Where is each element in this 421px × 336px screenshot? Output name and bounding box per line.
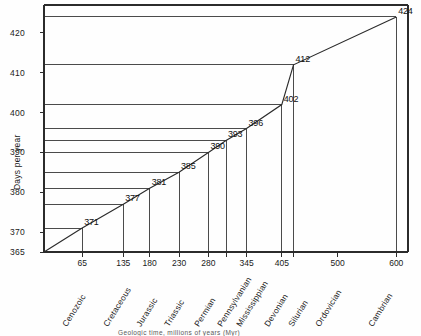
- x-tick-label: 230: [167, 258, 191, 268]
- y-tick-label: 365: [10, 247, 25, 257]
- leader-lines: [44, 17, 396, 228]
- data-point-label: 396: [249, 118, 263, 128]
- data-point-label: 390: [210, 141, 224, 151]
- chart-canvas: [0, 0, 421, 336]
- x-tick-label: 405: [270, 258, 294, 268]
- data-point-label: 393: [228, 129, 242, 139]
- data-point-label: 385: [181, 161, 195, 171]
- x-tick-label: 280: [196, 258, 220, 268]
- y-tick-label: 380: [10, 187, 25, 197]
- y-tick-label: 390: [10, 147, 25, 157]
- data-point-label: 377: [125, 193, 139, 203]
- y-axis-title: Days per year: [12, 134, 22, 190]
- figure-caption: Geologic time, millions of years (Myr): [118, 329, 240, 336]
- data-point-label: 402: [284, 94, 298, 104]
- y-tick-label: 400: [10, 108, 25, 118]
- figure-root: Days per year 365370380390400410420 6513…: [0, 0, 421, 336]
- x-tick-label: 600: [384, 258, 408, 268]
- y-tick-label: 410: [10, 68, 25, 78]
- data-point-label: 412: [296, 54, 310, 64]
- data-point-label: 371: [84, 217, 98, 227]
- data-point-label: 381: [152, 177, 166, 187]
- y-tick-label: 420: [10, 28, 25, 38]
- data-point-label: 424: [398, 6, 412, 16]
- x-tick-label: 135: [111, 258, 135, 268]
- x-tick-label: 65: [70, 258, 94, 268]
- y-tick-label: 370: [10, 227, 25, 237]
- x-tick-label: 345: [235, 258, 259, 268]
- x-tick-label: 180: [138, 258, 162, 268]
- x-tick-label: 500: [326, 258, 350, 268]
